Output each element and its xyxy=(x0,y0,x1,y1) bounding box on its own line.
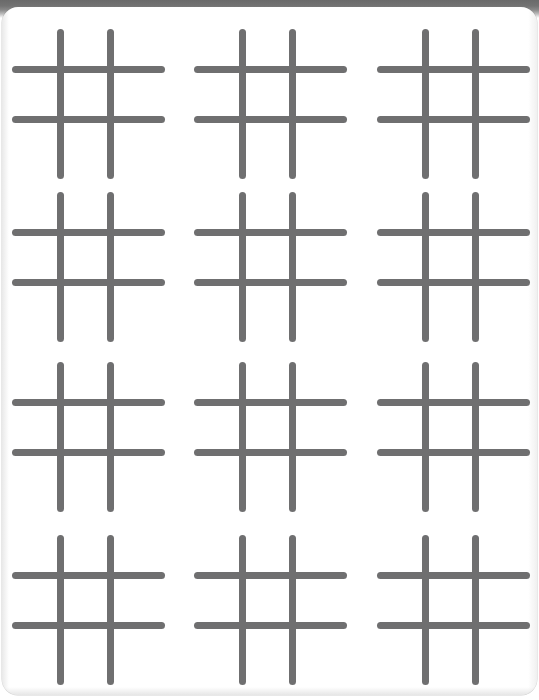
tic-tac-toe-cell[interactable] xyxy=(294,462,344,512)
tic-tac-toe-cell[interactable] xyxy=(377,292,427,342)
tic-tac-toe-cell[interactable] xyxy=(244,242,294,292)
tic-tac-toe-cell[interactable] xyxy=(194,535,244,585)
tic-tac-toe-cell[interactable] xyxy=(477,585,527,635)
tic-tac-toe-cell[interactable] xyxy=(244,635,294,685)
tic-tac-toe-cell[interactable] xyxy=(477,635,527,685)
tic-tac-toe-cell[interactable] xyxy=(112,129,162,179)
tic-tac-toe-cell[interactable] xyxy=(294,29,344,79)
tic-tac-toe-cell[interactable] xyxy=(244,292,294,342)
tic-tac-toe-cell[interactable] xyxy=(112,242,162,292)
tic-tac-toe-cell[interactable] xyxy=(194,242,244,292)
tic-tac-toe-cell[interactable] xyxy=(294,79,344,129)
tic-tac-toe-cell[interactable] xyxy=(244,535,294,585)
tic-tac-toe-cell[interactable] xyxy=(427,29,477,79)
tic-tac-toe-cell[interactable] xyxy=(244,79,294,129)
tic-tac-toe-cell[interactable] xyxy=(427,412,477,462)
tic-tac-toe-cell[interactable] xyxy=(377,535,427,585)
tic-tac-toe-cell[interactable] xyxy=(12,462,62,512)
tic-tac-toe-cell[interactable] xyxy=(12,535,62,585)
tic-tac-toe-cell[interactable] xyxy=(112,79,162,129)
tic-tac-toe-cell[interactable] xyxy=(377,462,427,512)
tic-tac-toe-cell[interactable] xyxy=(377,192,427,242)
tic-tac-toe-cell[interactable] xyxy=(112,412,162,462)
tic-tac-toe-cell[interactable] xyxy=(12,362,62,412)
tic-tac-toe-cell[interactable] xyxy=(112,585,162,635)
tic-tac-toe-grid[interactable] xyxy=(194,192,347,342)
tic-tac-toe-cell[interactable] xyxy=(12,192,62,242)
tic-tac-toe-cell[interactable] xyxy=(194,192,244,242)
tic-tac-toe-cell[interactable] xyxy=(194,79,244,129)
tic-tac-toe-cell[interactable] xyxy=(194,635,244,685)
tic-tac-toe-cell[interactable] xyxy=(477,412,527,462)
tic-tac-toe-cell[interactable] xyxy=(477,535,527,585)
tic-tac-toe-cell[interactable] xyxy=(112,635,162,685)
tic-tac-toe-grid[interactable] xyxy=(194,535,347,685)
tic-tac-toe-cell[interactable] xyxy=(194,412,244,462)
tic-tac-toe-cell[interactable] xyxy=(377,129,427,179)
tic-tac-toe-cell[interactable] xyxy=(62,535,112,585)
tic-tac-toe-cell[interactable] xyxy=(112,292,162,342)
tic-tac-toe-cell[interactable] xyxy=(112,192,162,242)
tic-tac-toe-cell[interactable] xyxy=(112,535,162,585)
tic-tac-toe-cell[interactable] xyxy=(112,462,162,512)
tic-tac-toe-cell[interactable] xyxy=(62,362,112,412)
tic-tac-toe-grid[interactable] xyxy=(194,29,347,179)
tic-tac-toe-cell[interactable] xyxy=(194,462,244,512)
tic-tac-toe-cell[interactable] xyxy=(377,412,427,462)
tic-tac-toe-cell[interactable] xyxy=(62,192,112,242)
tic-tac-toe-cell[interactable] xyxy=(62,242,112,292)
tic-tac-toe-cell[interactable] xyxy=(12,242,62,292)
tic-tac-toe-grid[interactable] xyxy=(12,29,165,179)
tic-tac-toe-cell[interactable] xyxy=(427,535,477,585)
tic-tac-toe-cell[interactable] xyxy=(294,535,344,585)
tic-tac-toe-cell[interactable] xyxy=(427,635,477,685)
tic-tac-toe-cell[interactable] xyxy=(62,292,112,342)
tic-tac-toe-cell[interactable] xyxy=(12,292,62,342)
tic-tac-toe-cell[interactable] xyxy=(62,462,112,512)
tic-tac-toe-cell[interactable] xyxy=(427,192,477,242)
tic-tac-toe-grid[interactable] xyxy=(194,362,347,512)
tic-tac-toe-cell[interactable] xyxy=(294,192,344,242)
tic-tac-toe-cell[interactable] xyxy=(62,635,112,685)
tic-tac-toe-cell[interactable] xyxy=(377,29,427,79)
tic-tac-toe-cell[interactable] xyxy=(62,79,112,129)
tic-tac-toe-cell[interactable] xyxy=(294,242,344,292)
tic-tac-toe-cell[interactable] xyxy=(294,585,344,635)
tic-tac-toe-cell[interactable] xyxy=(294,129,344,179)
tic-tac-toe-cell[interactable] xyxy=(427,242,477,292)
tic-tac-toe-grid[interactable] xyxy=(377,362,530,512)
tic-tac-toe-grid[interactable] xyxy=(377,535,530,685)
tic-tac-toe-grid[interactable] xyxy=(12,192,165,342)
tic-tac-toe-cell[interactable] xyxy=(62,412,112,462)
tic-tac-toe-grid[interactable] xyxy=(377,192,530,342)
tic-tac-toe-cell[interactable] xyxy=(244,585,294,635)
tic-tac-toe-cell[interactable] xyxy=(294,292,344,342)
tic-tac-toe-cell[interactable] xyxy=(12,585,62,635)
tic-tac-toe-cell[interactable] xyxy=(62,29,112,79)
tic-tac-toe-grid[interactable] xyxy=(12,535,165,685)
tic-tac-toe-cell[interactable] xyxy=(477,79,527,129)
tic-tac-toe-cell[interactable] xyxy=(477,462,527,512)
tic-tac-toe-cell[interactable] xyxy=(244,192,294,242)
tic-tac-toe-cell[interactable] xyxy=(12,412,62,462)
tic-tac-toe-cell[interactable] xyxy=(427,79,477,129)
tic-tac-toe-cell[interactable] xyxy=(62,585,112,635)
tic-tac-toe-cell[interactable] xyxy=(427,129,477,179)
tic-tac-toe-cell[interactable] xyxy=(427,585,477,635)
tic-tac-toe-cell[interactable] xyxy=(477,192,527,242)
tic-tac-toe-cell[interactable] xyxy=(294,412,344,462)
tic-tac-toe-cell[interactable] xyxy=(477,362,527,412)
tic-tac-toe-cell[interactable] xyxy=(194,585,244,635)
tic-tac-toe-cell[interactable] xyxy=(112,362,162,412)
tic-tac-toe-cell[interactable] xyxy=(477,129,527,179)
tic-tac-toe-cell[interactable] xyxy=(477,29,527,79)
tic-tac-toe-cell[interactable] xyxy=(12,635,62,685)
tic-tac-toe-cell[interactable] xyxy=(377,362,427,412)
tic-tac-toe-cell[interactable] xyxy=(377,635,427,685)
tic-tac-toe-cell[interactable] xyxy=(427,292,477,342)
tic-tac-toe-cell[interactable] xyxy=(12,29,62,79)
tic-tac-toe-cell[interactable] xyxy=(194,129,244,179)
tic-tac-toe-cell[interactable] xyxy=(244,362,294,412)
tic-tac-toe-cell[interactable] xyxy=(244,412,294,462)
tic-tac-toe-cell[interactable] xyxy=(377,79,427,129)
